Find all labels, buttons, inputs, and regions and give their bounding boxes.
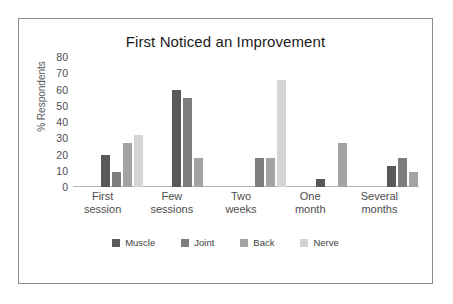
bar-back-3[interactable] bbox=[338, 143, 347, 187]
legend-swatch-icon bbox=[181, 239, 189, 247]
x-axis-category-labels: FirstsessionFewsessionsTwoweeksOnemonthS… bbox=[73, 190, 419, 216]
x-axis-label-4: Severalmonths bbox=[350, 190, 419, 216]
bar-back-1[interactable] bbox=[194, 158, 203, 187]
chart-card: First Noticed an Improvement % Responden… bbox=[18, 18, 433, 284]
y-tick-label: 60 bbox=[56, 84, 68, 96]
y-axis-label: % Respondents bbox=[36, 37, 47, 157]
bar-back-4[interactable] bbox=[409, 172, 418, 187]
bar-muscle-3[interactable] bbox=[316, 179, 325, 187]
y-tick-label: 50 bbox=[56, 100, 68, 112]
legend-item-joint[interactable]: Joint bbox=[181, 237, 214, 248]
y-tick-label: 70 bbox=[56, 67, 68, 79]
x-axis-label-0: Firstsession bbox=[73, 190, 142, 216]
bar-muscle-1[interactable] bbox=[172, 90, 181, 188]
legend-swatch-icon bbox=[300, 239, 308, 247]
y-tick-label: 30 bbox=[56, 132, 68, 144]
bar-group bbox=[73, 57, 145, 187]
y-tick-label: 0 bbox=[62, 181, 68, 193]
legend-swatch-icon bbox=[112, 239, 120, 247]
plot-area: 80706050403020100 bbox=[73, 57, 419, 187]
bar-joint-1[interactable] bbox=[183, 98, 192, 187]
bar-group bbox=[145, 57, 217, 187]
bar-joint-2[interactable] bbox=[255, 158, 264, 187]
bar-muscle-0[interactable] bbox=[101, 155, 110, 188]
bar-back-0[interactable] bbox=[123, 143, 132, 187]
bar-joint-4[interactable] bbox=[398, 158, 407, 187]
legend-label: Nerve bbox=[313, 237, 338, 248]
legend-label: Joint bbox=[194, 237, 214, 248]
legend-item-back[interactable]: Back bbox=[240, 237, 274, 248]
bar-nerve-2[interactable] bbox=[277, 80, 286, 187]
bar-group bbox=[288, 57, 360, 187]
legend-swatch-icon bbox=[240, 239, 248, 247]
x-axis-label-2: Twoweeks bbox=[211, 190, 280, 216]
y-tick-label: 40 bbox=[56, 116, 68, 128]
legend-label: Muscle bbox=[125, 237, 155, 248]
y-tick-label: 20 bbox=[56, 149, 68, 161]
x-axis-label-3: Onemonth bbox=[281, 190, 350, 216]
legend-label: Back bbox=[253, 237, 274, 248]
legend-item-muscle[interactable]: Muscle bbox=[112, 237, 155, 248]
bar-group bbox=[216, 57, 288, 187]
bar-muscle-4[interactable] bbox=[387, 166, 396, 187]
legend-item-nerve[interactable]: Nerve bbox=[300, 237, 338, 248]
bar-group bbox=[360, 57, 432, 187]
bar-groups bbox=[73, 57, 419, 187]
chart-legend: MuscleJointBackNerve bbox=[19, 237, 432, 248]
bar-nerve-0[interactable] bbox=[134, 135, 143, 187]
y-tick-label: 10 bbox=[56, 165, 68, 177]
bar-joint-0[interactable] bbox=[112, 172, 121, 187]
y-tick-label: 80 bbox=[56, 51, 68, 63]
bar-back-2[interactable] bbox=[266, 158, 275, 187]
x-axis-label-1: Fewsessions bbox=[142, 190, 211, 216]
plot-wrapper: % Respondents 80706050403020100 Firstses… bbox=[19, 19, 432, 283]
